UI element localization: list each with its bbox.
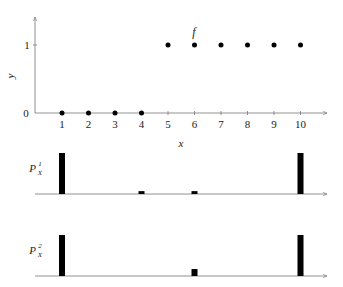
bar xyxy=(298,153,304,194)
data-point xyxy=(219,43,224,48)
bar xyxy=(59,235,65,276)
function-label-f: f xyxy=(192,25,197,39)
xtick-label: 10 xyxy=(295,118,307,130)
p1-label-sup: 1 xyxy=(38,160,42,168)
data-point xyxy=(272,43,277,48)
p1-label: P xyxy=(28,162,36,174)
bar xyxy=(59,153,65,194)
y-axis-label: y xyxy=(4,73,16,79)
p1-label-sub: X xyxy=(37,169,43,177)
ytick-0-label: 0 xyxy=(23,107,29,119)
xtick-label: 2 xyxy=(86,118,92,130)
bar xyxy=(139,191,145,194)
ytick-1-label: 1 xyxy=(24,39,30,51)
bar xyxy=(192,269,198,276)
p2-plot: P 2 X xyxy=(28,235,327,276)
xtick-label: 4 xyxy=(139,118,145,130)
xtick-label: 3 xyxy=(112,118,118,130)
p2-label-sub: X xyxy=(37,251,43,259)
xtick-label: 1 xyxy=(59,118,65,130)
chart-figure: 0 1 y x f 12345678910 P 1 X P 2 X xyxy=(0,0,343,287)
xtick-label: 5 xyxy=(165,118,171,130)
f-points xyxy=(60,43,304,116)
data-point xyxy=(298,43,303,48)
data-point xyxy=(192,43,197,48)
p2-label-sup: 2 xyxy=(38,242,42,250)
data-point xyxy=(166,43,171,48)
p2-label: P xyxy=(28,244,36,256)
bar xyxy=(298,235,304,276)
data-point xyxy=(60,111,65,116)
xtick-label: 6 xyxy=(192,118,198,130)
bar xyxy=(192,191,198,194)
data-point xyxy=(139,111,144,116)
data-point xyxy=(113,111,118,116)
x-axis-label: x xyxy=(178,137,184,149)
p2-bars xyxy=(59,235,304,276)
data-point xyxy=(86,111,91,116)
p1-plot: P 1 X xyxy=(28,153,327,194)
p1-bars xyxy=(59,153,304,194)
x-ticks: 12345678910 xyxy=(59,111,306,130)
xtick-label: 9 xyxy=(271,118,277,130)
f-plot: 0 1 y x f 12345678910 xyxy=(4,17,327,149)
xtick-label: 7 xyxy=(218,118,224,130)
xtick-label: 8 xyxy=(245,118,251,130)
data-point xyxy=(245,43,250,48)
